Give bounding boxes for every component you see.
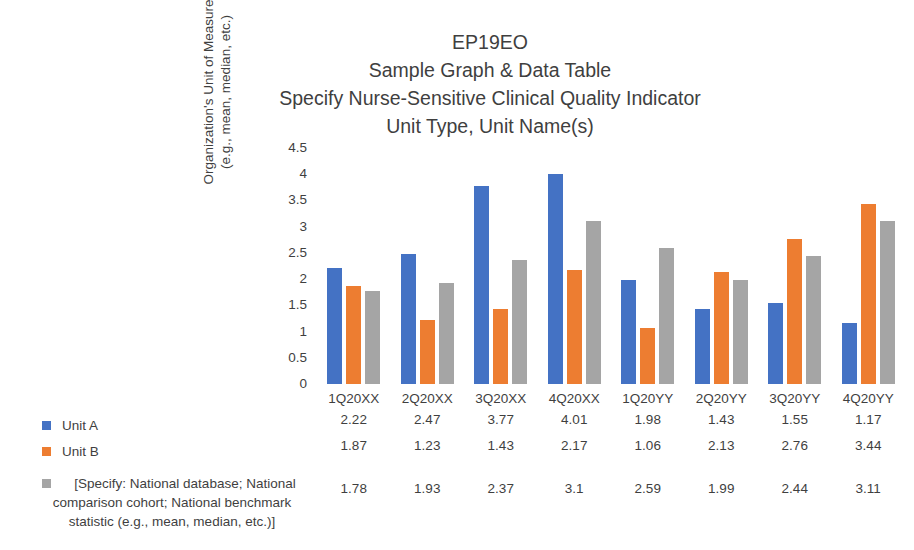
x-axis-category-label: 1Q20YY (611, 388, 685, 410)
y-axis-tick-0.5: 0.5 (271, 353, 307, 363)
table-cell-2Q20YY-series-1: 2.13 (685, 438, 759, 453)
bar-group-1Q20XX (317, 148, 391, 384)
bar-4Q20YY-series-1[interactable] (861, 204, 876, 384)
table-column-2Q20XX: 2Q20XX2.471.231.93 (391, 388, 465, 410)
chart-title-line-1: EP19EO (66, 28, 914, 56)
bar-4Q20XX-series-0[interactable] (548, 174, 563, 384)
x-axis-category-label: 2Q20YY (685, 388, 759, 410)
bar-3Q20YY-series-1[interactable] (787, 239, 802, 384)
table-column-1Q20YY: 1Q20YY1.981.062.59 (611, 388, 685, 410)
bar-4Q20XX-series-2[interactable] (586, 221, 601, 384)
bar-4Q20XX-series-1[interactable] (567, 270, 582, 384)
chart-title-line-4: Unit Type, Unit Name(s) (66, 112, 914, 140)
table-cell-2Q20YY-series-2: 1.99 (685, 481, 759, 496)
table-cell-3Q20XX-series-2: 2.37 (464, 481, 538, 496)
legend-label-unit-b: Unit B (20, 442, 312, 461)
table-column-2Q20YY: 2Q20YY1.432.131.99 (685, 388, 759, 410)
x-axis-category-label: 4Q20XX (538, 388, 612, 410)
table-cell-1Q20XX-series-0: 2.22 (317, 412, 391, 427)
table-cell-3Q20YY-series-2: 2.44 (758, 481, 832, 496)
table-cell-2Q20XX-series-2: 1.93 (391, 481, 465, 496)
table-cell-3Q20XX-series-0: 3.77 (464, 412, 538, 427)
chart-plot-region: Organization's Unit of Measure (e.g., me… (205, 148, 905, 388)
y-axis-tick-2.5: 2.5 (271, 248, 307, 258)
chart-title-line-3: Specify Nurse-Sensitive Clinical Quality… (66, 84, 914, 112)
legend-label-unit-a: Unit A (20, 416, 312, 435)
bar-3Q20XX-series-0[interactable] (474, 186, 489, 384)
legend-item-benchmark[interactable]: [Specify: National database; National co… (20, 474, 312, 531)
table-cell-4Q20YY-series-0: 1.17 (832, 412, 906, 427)
bar-2Q20XX-series-2[interactable] (439, 283, 454, 384)
bar-3Q20YY-series-2[interactable] (806, 256, 821, 384)
bar-4Q20YY-series-0[interactable] (842, 323, 857, 384)
bar-group-2Q20YY (685, 148, 759, 384)
legend-swatch-icon-benchmark (42, 479, 51, 488)
table-column-4Q20YY: 4Q20YY1.173.443.11 (832, 388, 906, 410)
table-cell-3Q20YY-series-0: 1.55 (758, 412, 832, 427)
bar-plot-area (317, 148, 905, 384)
bar-2Q20XX-series-1[interactable] (420, 320, 435, 385)
legend-label-benchmark: [Specify: National database; National co… (20, 474, 312, 531)
table-cell-4Q20XX-series-1: 2.17 (538, 438, 612, 453)
y-axis-tick-labels: 00.511.522.533.544.5 (271, 148, 307, 388)
bar-1Q20XX-series-2[interactable] (365, 291, 380, 384)
table-column-1Q20XX: 1Q20XX2.221.871.78 (317, 388, 391, 410)
bar-group-4Q20XX (538, 148, 612, 384)
legend-label-benchmark-line-3: statistic (e.g., mean, median, etc.)] (69, 514, 275, 529)
y-axis-title: Organization's Unit of Measure (e.g., me… (200, 0, 264, 212)
bar-4Q20YY-series-2[interactable] (880, 221, 895, 384)
legend-label-benchmark-line-1: [Specify: National database; National (74, 476, 295, 491)
x-axis-category-label: 2Q20XX (391, 388, 465, 410)
chart-title-line-2: Sample Graph & Data Table (66, 56, 914, 84)
bar-group-1Q20YY (611, 148, 685, 384)
table-cell-2Q20XX-series-0: 2.47 (391, 412, 465, 427)
data-table-columns: 1Q20XX2.221.871.782Q20XX2.471.231.933Q20… (317, 388, 905, 550)
table-column-3Q20YY: 3Q20YY1.552.762.44 (758, 388, 832, 410)
legend-label-benchmark-line-2: comparison cohort; National benchmark (53, 495, 292, 510)
bar-1Q20XX-series-0[interactable] (327, 268, 342, 384)
table-column-4Q20XX: 4Q20XX4.012.173.1 (538, 388, 612, 410)
table-cell-3Q20XX-series-1: 1.43 (464, 438, 538, 453)
y-axis-tick-3.5: 3.5 (271, 195, 307, 205)
table-cell-1Q20YY-series-0: 1.98 (611, 412, 685, 427)
bar-3Q20XX-series-2[interactable] (512, 260, 527, 384)
legend-swatch-icon-unit-a (42, 421, 51, 430)
bar-group-3Q20XX (464, 148, 538, 384)
x-axis-category-label: 3Q20YY (758, 388, 832, 410)
bar-3Q20XX-series-1[interactable] (493, 309, 508, 384)
y-axis-tick-3: 3 (271, 222, 307, 232)
bar-2Q20YY-series-2[interactable] (733, 280, 748, 384)
chart-legend: Unit A Unit B [Specify: National databas… (20, 416, 312, 531)
bar-1Q20YY-series-0[interactable] (621, 280, 636, 384)
y-axis-tick-2: 2 (271, 274, 307, 284)
table-cell-2Q20XX-series-1: 1.23 (391, 438, 465, 453)
table-cell-4Q20XX-series-2: 3.1 (538, 481, 612, 496)
table-cell-1Q20XX-series-2: 1.78 (317, 481, 391, 496)
bar-2Q20YY-series-0[interactable] (695, 309, 710, 384)
bar-1Q20YY-series-2[interactable] (659, 248, 674, 384)
bar-2Q20YY-series-1[interactable] (714, 272, 729, 384)
bar-group-2Q20XX (391, 148, 465, 384)
y-axis-title-line-1: Organization's Unit of Measure (200, 0, 217, 212)
table-cell-1Q20XX-series-1: 1.87 (317, 438, 391, 453)
table-cell-1Q20YY-series-1: 1.06 (611, 438, 685, 453)
x-axis-category-label: 1Q20XX (317, 388, 391, 410)
x-axis-category-label: 4Q20YY (832, 388, 906, 410)
bar-group-4Q20YY (832, 148, 906, 384)
table-cell-1Q20YY-series-2: 2.59 (611, 481, 685, 496)
bar-2Q20XX-series-0[interactable] (401, 254, 416, 384)
legend-swatch-icon-unit-b (42, 447, 51, 456)
table-cell-4Q20YY-series-1: 3.44 (832, 438, 906, 453)
bar-1Q20XX-series-1[interactable] (346, 286, 361, 384)
y-axis-tick-4: 4 (271, 169, 307, 179)
legend-item-unit-b[interactable]: Unit B (20, 442, 312, 464)
bar-1Q20YY-series-1[interactable] (640, 328, 655, 384)
table-cell-4Q20XX-series-0: 4.01 (538, 412, 612, 427)
table-cell-4Q20YY-series-2: 3.11 (832, 481, 906, 496)
bar-3Q20YY-series-0[interactable] (768, 303, 783, 384)
x-axis-category-label: 3Q20XX (464, 388, 538, 410)
bar-group-3Q20YY (758, 148, 832, 384)
y-axis-tick-4.5: 4.5 (271, 143, 307, 153)
legend-item-unit-a[interactable]: Unit A (20, 416, 312, 438)
y-axis-title-line-2: (e.g., mean, median, etc.) (217, 0, 234, 212)
